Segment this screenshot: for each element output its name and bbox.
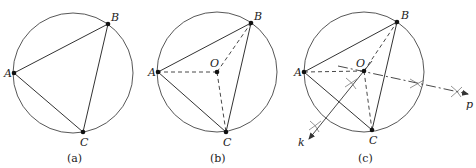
radius-oc bbox=[217, 72, 226, 132]
circumscribed-triangle-diagram: A B C (a) A B C O (b) bbox=[0, 0, 476, 168]
label-c: C bbox=[369, 134, 378, 147]
panel-b: A B C O (b) bbox=[147, 10, 277, 165]
point-b-dot bbox=[249, 21, 254, 26]
triangle-abc bbox=[158, 23, 251, 132]
point-a-dot bbox=[12, 71, 17, 76]
point-b-dot bbox=[106, 22, 111, 27]
label-o: O bbox=[356, 57, 365, 70]
label-a: A bbox=[3, 67, 12, 80]
circumcircle bbox=[13, 13, 133, 133]
triangle-abc bbox=[304, 22, 397, 130]
panel-a: A B C (a) bbox=[3, 11, 133, 165]
point-a-dot bbox=[156, 70, 161, 75]
point-c-dot bbox=[224, 130, 229, 135]
panel-c: A B C O k p (c) bbox=[293, 9, 473, 165]
label-b: B bbox=[400, 9, 409, 22]
point-c-dot bbox=[81, 130, 86, 135]
label-c: C bbox=[80, 136, 89, 149]
caption-b: (b) bbox=[210, 152, 226, 165]
label-k: k bbox=[298, 136, 305, 149]
point-a-dot bbox=[302, 70, 307, 75]
radius-oa bbox=[304, 71, 364, 72]
label-b: B bbox=[253, 10, 262, 23]
label-a: A bbox=[147, 66, 156, 79]
caption-c: (c) bbox=[358, 152, 373, 165]
compass-arc-marks bbox=[309, 78, 462, 132]
label-b: B bbox=[110, 11, 119, 24]
point-b-dot bbox=[395, 20, 400, 25]
label-o: O bbox=[210, 57, 219, 70]
radius-oc bbox=[364, 71, 372, 130]
radius-ob bbox=[364, 22, 397, 71]
triangle-abc bbox=[14, 24, 108, 132]
label-a: A bbox=[293, 66, 302, 79]
point-o-dot bbox=[215, 70, 220, 75]
label-p: p bbox=[466, 98, 473, 111]
bisector-line-p bbox=[338, 66, 468, 94]
point-c-dot bbox=[370, 128, 375, 133]
caption-a: (a) bbox=[67, 152, 82, 165]
radius-ob bbox=[217, 23, 251, 72]
label-c: C bbox=[223, 136, 232, 149]
